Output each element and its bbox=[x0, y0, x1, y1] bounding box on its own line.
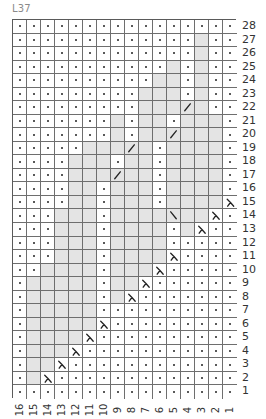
purl-dot-icon bbox=[131, 39, 133, 41]
purl-dot-icon bbox=[215, 52, 217, 54]
purl-dot-icon bbox=[145, 323, 147, 325]
chart-cell-r7-c16 bbox=[13, 304, 27, 318]
chart-cell-r14-c3 bbox=[195, 209, 209, 223]
row-label: 19 bbox=[242, 141, 256, 155]
column-label: 5 bbox=[166, 400, 180, 419]
chart-cell-r13-c13 bbox=[55, 223, 69, 237]
chart-cell-r28-c1 bbox=[223, 20, 237, 34]
chart-cell-r8-c9 bbox=[111, 291, 125, 305]
knitting-chart-grid bbox=[12, 19, 236, 398]
chart-cell-r24-c13 bbox=[55, 74, 69, 88]
chart-cell-r19-c10 bbox=[97, 142, 111, 156]
chart-cell-r16-c2 bbox=[209, 182, 223, 196]
chart-cell-r27-c15 bbox=[27, 34, 41, 48]
purl-dot-icon bbox=[75, 147, 77, 149]
row-label: 21 bbox=[242, 114, 256, 128]
chart-cell-r28-c10 bbox=[97, 20, 111, 34]
purl-dot-icon bbox=[159, 188, 161, 190]
purl-dot-icon bbox=[201, 255, 203, 257]
purl-dot-icon bbox=[103, 242, 105, 244]
column-label: 3 bbox=[194, 400, 208, 419]
chart-cell-r22-c7 bbox=[139, 101, 153, 115]
chart-cell-r16-c3 bbox=[195, 182, 209, 196]
chart-cell-r24-c8 bbox=[125, 74, 139, 88]
column-label: 6 bbox=[152, 400, 166, 419]
chart-cell-r3-c6 bbox=[153, 358, 167, 372]
column-label: 12 bbox=[68, 400, 82, 419]
chart-cell-r27-c14 bbox=[41, 34, 55, 48]
purl-dot-icon bbox=[131, 364, 133, 366]
chart-cell-r24-c4 bbox=[181, 74, 195, 88]
chart-cell-r1-c1 bbox=[223, 385, 237, 399]
chart-cell-r24-c2 bbox=[209, 74, 223, 88]
chart-cell-r9-c10 bbox=[97, 277, 111, 291]
purl-dot-icon bbox=[131, 377, 133, 379]
chart-cell-r3-c9 bbox=[111, 358, 125, 372]
chart-cell-r26-c16 bbox=[13, 47, 27, 61]
chart-cell-r9-c8 bbox=[125, 277, 139, 291]
chart-cell-r23-c3 bbox=[195, 88, 209, 102]
row-label: 11 bbox=[242, 249, 256, 263]
purl-dot-icon bbox=[61, 39, 63, 41]
purl-dot-icon bbox=[61, 66, 63, 68]
purl-dot-icon bbox=[201, 350, 203, 352]
chart-cell-r1-c8 bbox=[125, 385, 139, 399]
purl-dot-icon bbox=[159, 25, 161, 27]
chart-cell-r18-c14 bbox=[41, 155, 55, 169]
chart-cell-r2-c13 bbox=[55, 372, 69, 386]
chart-cell-r14-c13 bbox=[55, 209, 69, 223]
chart-cell-r9-c2 bbox=[209, 277, 223, 291]
purl-dot-icon bbox=[187, 323, 189, 325]
row-label: 13 bbox=[242, 222, 256, 236]
purl-dot-icon bbox=[159, 323, 161, 325]
row-label: 4 bbox=[242, 344, 249, 358]
chart-cell-r19-c6 bbox=[153, 142, 167, 156]
right-slant-icon bbox=[181, 101, 194, 114]
purl-dot-icon bbox=[47, 25, 49, 27]
purl-dot-icon bbox=[19, 120, 21, 122]
purl-dot-icon bbox=[215, 377, 217, 379]
chart-cell-r19-c14 bbox=[41, 142, 55, 156]
chart-cell-r2-c8 bbox=[125, 372, 139, 386]
chart-cell-r25-c6 bbox=[153, 61, 167, 75]
chart-cell-r13-c11 bbox=[83, 223, 97, 237]
chart-cell-r7-c10 bbox=[97, 304, 111, 318]
purl-dot-icon bbox=[215, 79, 217, 81]
chart-cell-r25-c15 bbox=[27, 61, 41, 75]
column-label: 7 bbox=[138, 400, 152, 419]
chart-cell-r15-c14 bbox=[41, 196, 55, 210]
chart-cell-r5-c10 bbox=[97, 331, 111, 345]
purl-dot-icon bbox=[229, 52, 231, 54]
purl-dot-icon bbox=[229, 93, 231, 95]
purl-dot-icon bbox=[47, 93, 49, 95]
chart-cell-r11-c11 bbox=[83, 250, 97, 264]
chart-cell-r10-c1 bbox=[223, 264, 237, 278]
column-label: 14 bbox=[40, 400, 54, 419]
chart-cell-r22-c8 bbox=[125, 101, 139, 115]
chart-cell-r15-c4 bbox=[181, 196, 195, 210]
purl-dot-icon bbox=[89, 66, 91, 68]
chart-cell-r26-c13 bbox=[55, 47, 69, 61]
chart-cell-r9-c7 bbox=[139, 277, 153, 291]
chart-cell-r10-c5 bbox=[167, 264, 181, 278]
purl-dot-icon bbox=[33, 255, 35, 257]
chart-cell-r9-c14 bbox=[41, 277, 55, 291]
purl-dot-icon bbox=[173, 350, 175, 352]
purl-dot-icon bbox=[215, 350, 217, 352]
purl-dot-icon bbox=[61, 174, 63, 176]
purl-dot-icon bbox=[187, 296, 189, 298]
row-label: 2 bbox=[242, 371, 249, 385]
chart-cell-r24-c15 bbox=[27, 74, 41, 88]
chart-cell-r14-c1 bbox=[223, 209, 237, 223]
chart-cell-r19-c13 bbox=[55, 142, 69, 156]
chart-cell-r10-c15 bbox=[27, 264, 41, 278]
chart-cell-r15-c5 bbox=[167, 196, 181, 210]
chart-cell-r10-c9 bbox=[111, 264, 125, 278]
chart-cell-r10-c14 bbox=[41, 264, 55, 278]
column-number-labels: 16151413121110987654321 bbox=[12, 400, 236, 419]
chart-cell-r23-c13 bbox=[55, 88, 69, 102]
chart-cell-r16-c14 bbox=[41, 182, 55, 196]
chart-cell-r9-c16 bbox=[13, 277, 27, 291]
decrease-lambda-icon bbox=[209, 209, 222, 222]
chart-cell-r12-c15 bbox=[27, 237, 41, 251]
